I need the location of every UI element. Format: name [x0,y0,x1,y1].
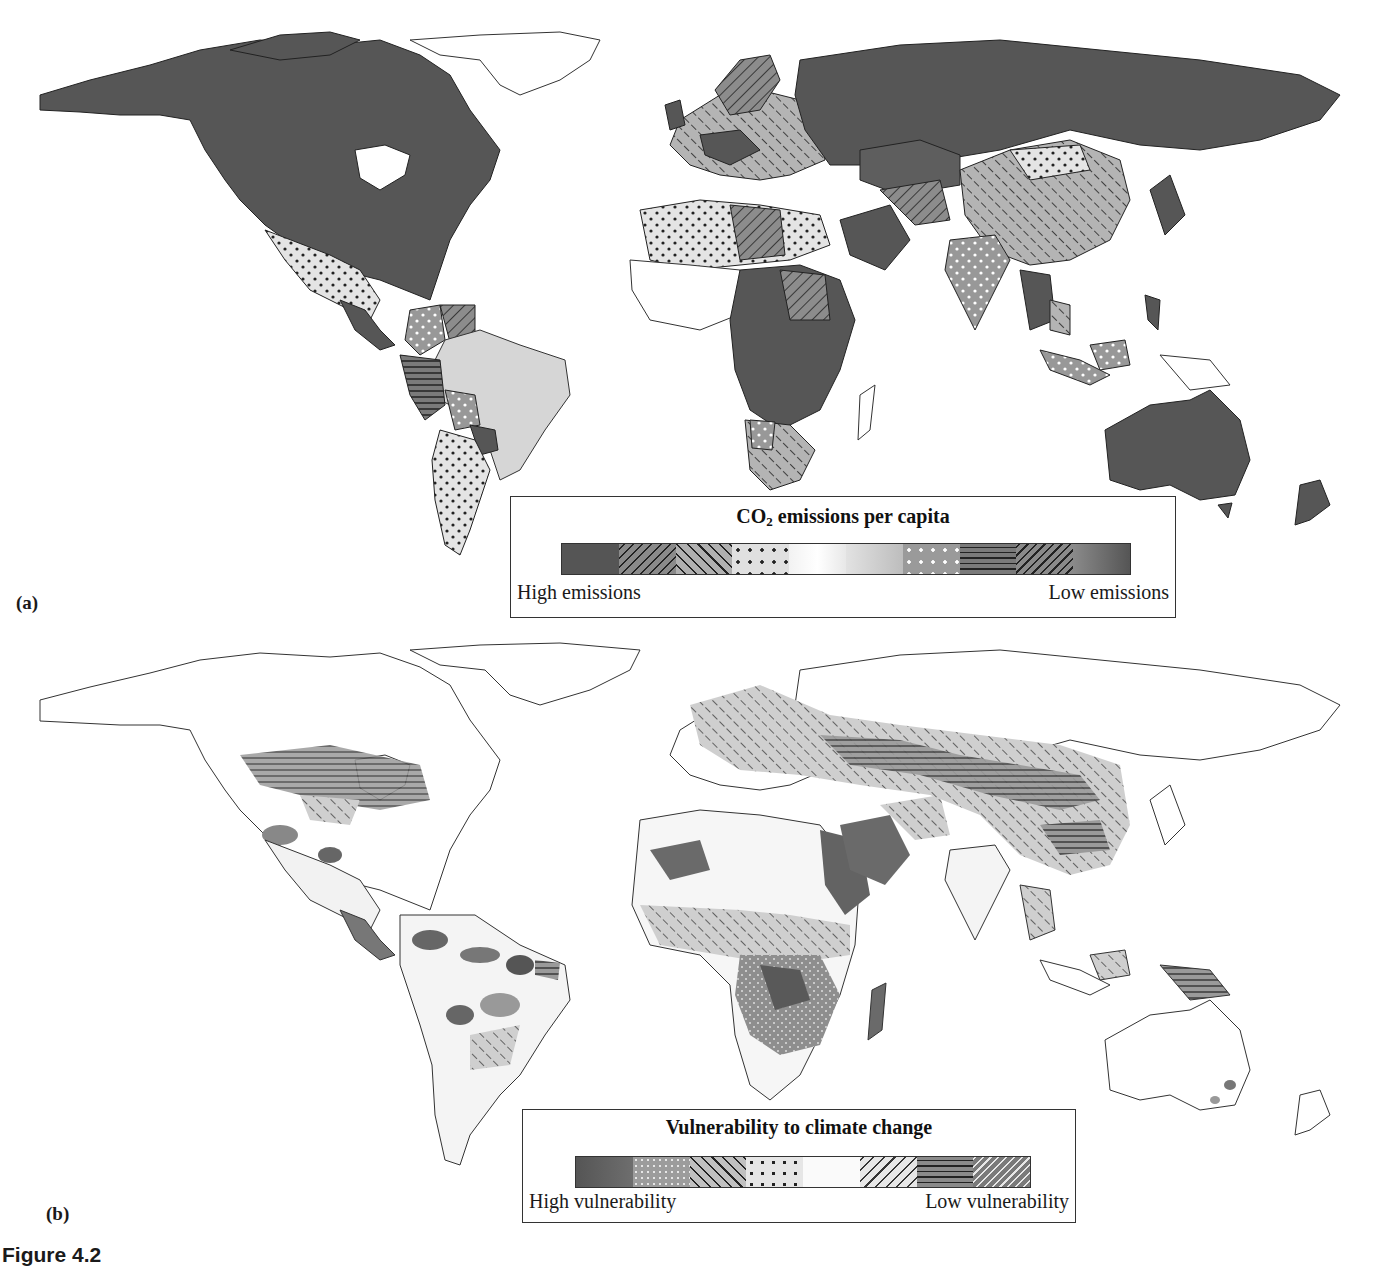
legend-title-vulnerability: Vulnerability to climate change [523,1116,1075,1139]
legend-co2-emissions: CO2 emissions per capita High emissions … [510,496,1176,618]
legend-title-co2: CO2 emissions per capita [511,505,1175,530]
legend-label-high-vulnerability: High vulnerability [529,1190,676,1213]
legend-swatch-horizontal [960,544,1017,574]
panel-label-a: (a) [16,592,38,614]
legend-label-low-emissions: Low emissions [1048,581,1169,604]
legend-swatch-dots-dark [732,544,789,574]
legend-swatch-diag-left [676,544,733,574]
legend-swatch-dots-white [633,1157,690,1187]
legend-swatch-diag-white [973,1157,1030,1187]
legend-swatch-white [789,544,846,574]
legend-swatch-solid-mid [1073,544,1130,574]
legend-swatch-white [803,1157,860,1187]
legend-scale-bar-vulnerability [575,1156,1031,1188]
legend-label-high-emissions: High emissions [517,581,641,604]
legend-swatch-diag-right [619,544,676,574]
region-australia [1105,390,1250,500]
legend-swatch-diag-bold [1016,544,1073,574]
legend-swatch-solid-dark [576,1157,633,1187]
region-north-america [40,40,500,300]
legend-swatch-dots-white [903,544,960,574]
figure-caption: Figure 4.2 [2,1243,101,1267]
panel-label-b: (b) [46,1203,69,1225]
legend-swatch-horizontal [917,1157,974,1187]
legend-label-low-vulnerability: Low vulnerability [925,1190,1069,1213]
panel-a-co2-map: (a) CO2 emissions per capita High emissi… [0,0,1381,625]
legend-vulnerability: Vulnerability to climate change High vul… [522,1109,1076,1223]
legend-swatch-diag-right [860,1157,917,1187]
region-india [945,235,1010,330]
legend-swatch-gradient-light [846,544,903,574]
panel-b-vulnerability-map: (b) Vulnerability to climate change High… [0,625,1381,1230]
legend-scale-bar-co2 [561,543,1131,575]
legend-swatch-diag-left [690,1157,747,1187]
legend-swatch-solid-dark [562,544,619,574]
legend-swatch-dots-dark [746,1157,803,1187]
